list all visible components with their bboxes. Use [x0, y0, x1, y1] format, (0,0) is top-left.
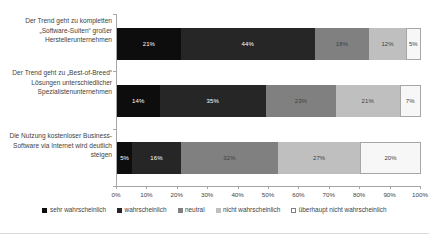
legend-item-label: neutral	[185, 207, 205, 213]
plot-area: 21%44%18%12%5% 14%35%23%21%7% 5%16%32%27…	[116, 14, 421, 186]
legend-item[interactable]: sehr wahrscheinlich	[42, 207, 106, 213]
legend-item-label: sehr wahrscheinlich	[50, 207, 106, 213]
bar-segment-value-label: 32%	[223, 155, 235, 161]
value-axis-tick-label: 100%	[400, 191, 429, 198]
bar-segment: 16%	[132, 142, 181, 174]
value-axis-tick	[116, 186, 117, 189]
category-axis-tick	[113, 129, 116, 130]
bar-segment-value-label: 21%	[362, 98, 374, 104]
bar-segment: 5%	[117, 142, 132, 174]
value-axis-tick	[146, 186, 147, 189]
value-axis-tick	[298, 186, 299, 189]
bar-segment-value-label: 35%	[207, 98, 219, 104]
bar-segment-value-label: 44%	[242, 41, 254, 47]
legend-swatch-icon	[42, 208, 47, 213]
bar-segment-value-label: 12%	[381, 41, 393, 47]
legend-swatch-icon	[178, 208, 183, 213]
category-label-best-of-breed: Der Trend geht zu „Best-of-Breed“ Lösung…	[7, 68, 112, 97]
legend-item[interactable]: nicht wahrscheinlich	[216, 207, 281, 213]
bar-segment: 44%	[181, 28, 315, 60]
chart-legend: sehr wahrscheinlichwahrscheinlichneutral…	[0, 207, 429, 213]
bar-segment-value-label: 14%	[132, 98, 144, 104]
bar-segment: 5%	[406, 28, 421, 60]
legend-item[interactable]: überhaupt nicht wahrscheinlich	[291, 207, 386, 213]
value-axis-line	[116, 186, 421, 187]
category-axis-tick	[113, 71, 116, 72]
bar-segment-value-label: 23%	[295, 98, 307, 104]
bar-segment-value-label: 20%	[384, 155, 396, 161]
value-axis-tick	[420, 186, 421, 189]
value-axis-tick	[207, 186, 208, 189]
value-axis-tick	[238, 186, 239, 189]
bar-segment: 32%	[181, 142, 278, 174]
table-row: 21%44%18%12%5%	[117, 28, 421, 60]
bar-segment: 14%	[117, 85, 160, 117]
bar-segment-value-label: 7%	[406, 98, 415, 104]
legend-item-label: nicht wahrscheinlich	[223, 207, 280, 213]
bar-segment-value-label: 5%	[409, 41, 418, 47]
bar-segment-value-label: 5%	[120, 155, 129, 161]
bar-segment: 23%	[266, 85, 336, 117]
legend-swatch-icon	[117, 208, 122, 213]
value-axis-tick	[177, 186, 178, 189]
bar-segment: 7%	[400, 85, 421, 117]
legend-item-label: überhaupt nicht wahrscheinlich	[299, 207, 387, 213]
bar-segment-value-label: 18%	[336, 41, 348, 47]
category-axis-tick	[113, 14, 116, 15]
legend-swatch-icon	[216, 208, 221, 213]
value-axis-tick	[329, 186, 330, 189]
category-label-software-suiten: Der Trend geht zu kompletten „Software-S…	[7, 16, 112, 45]
legend-item[interactable]: wahrscheinlich	[117, 207, 166, 213]
stacked-bar-chart: Der Trend geht zu kompletten „Software-S…	[0, 0, 429, 234]
bar-segment: 35%	[160, 85, 266, 117]
legend-item-label: wahrscheinlich	[125, 207, 167, 213]
bar-segment-value-label: 16%	[150, 155, 162, 161]
bar-segment: 21%	[117, 28, 181, 60]
bar-segment-value-label: 27%	[313, 155, 325, 161]
bar-segment: 27%	[278, 142, 360, 174]
bar-segment: 12%	[369, 28, 405, 60]
value-axis-tick	[390, 186, 391, 189]
legend-item[interactable]: neutral	[178, 207, 205, 213]
table-row: 14%35%23%21%7%	[117, 85, 421, 117]
category-label-kostenlose-business-software: Die Nutzung kostenloser Business-Softwar…	[7, 131, 112, 160]
value-axis-tick	[359, 186, 360, 189]
bar-segment: 20%	[360, 142, 421, 174]
bar-segment: 18%	[315, 28, 370, 60]
value-axis-tick	[268, 186, 269, 189]
table-row: 5%16%32%27%20%	[117, 142, 421, 174]
bar-segment-value-label: 21%	[143, 41, 155, 47]
legend-swatch-icon	[291, 208, 296, 213]
value-axis-tick-labels: 0%10%20%30%40%50%60%70%80%90%100%	[116, 191, 421, 201]
bar-segment: 21%	[336, 85, 400, 117]
